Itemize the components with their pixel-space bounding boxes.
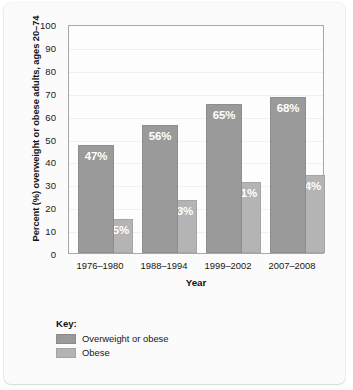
legend-swatch xyxy=(56,334,76,344)
bar-overweight-or-obese: 56% xyxy=(142,125,178,253)
bar-value-label: 47% xyxy=(79,150,113,162)
legend-label: Obese xyxy=(82,347,110,358)
y-axis-tick-label: 70 xyxy=(22,88,56,99)
bar-value-label: 65% xyxy=(207,109,241,121)
y-axis-tick-label: 80 xyxy=(22,65,56,76)
y-axis-tick-label: 90 xyxy=(22,42,56,53)
bar-value-label: 56% xyxy=(143,130,177,142)
y-axis-tick-label: 50 xyxy=(22,134,56,145)
legend-swatch xyxy=(56,348,76,358)
y-axis-tick-label: 0 xyxy=(22,249,56,260)
bar-group: 34%68% xyxy=(270,26,316,253)
bar-overweight-or-obese: 47% xyxy=(78,145,114,253)
plot-area: 15%47%23%56%31%65%34%68% xyxy=(68,25,324,254)
y-axis-tick-label: 60 xyxy=(22,111,56,122)
bar-group: 15%47% xyxy=(78,26,124,253)
legend-item: Overweight or obese xyxy=(56,333,169,344)
y-axis-tick-label: 30 xyxy=(22,180,56,191)
y-axis-tick-label: 100 xyxy=(22,20,56,31)
legend-item: Obese xyxy=(56,347,169,358)
y-axis-tick-label: 20 xyxy=(22,203,56,214)
legend-label: Overweight or obese xyxy=(82,333,169,344)
x-axis-tick-label: 2007–2008 xyxy=(247,260,337,271)
chart-card: Percent (%) overweight or obese adults, … xyxy=(4,3,345,384)
y-axis-title: Percent (%) overweight or obese adults, … xyxy=(30,4,41,254)
legend-title: Key: xyxy=(56,318,169,329)
bar-group: 23%56% xyxy=(142,26,188,253)
bar-overweight-or-obese: 65% xyxy=(206,104,242,253)
bar-value-label: 68% xyxy=(271,102,305,114)
legend: Key: Overweight or obeseObese xyxy=(56,318,169,361)
x-axis-title: Year xyxy=(68,277,324,288)
y-axis-tick-label: 40 xyxy=(22,157,56,168)
bar-overweight-or-obese: 68% xyxy=(270,97,306,253)
y-axis-tick-label: 10 xyxy=(22,226,56,237)
bar-group: 31%65% xyxy=(206,26,252,253)
legend-items: Overweight or obeseObese xyxy=(56,333,169,358)
